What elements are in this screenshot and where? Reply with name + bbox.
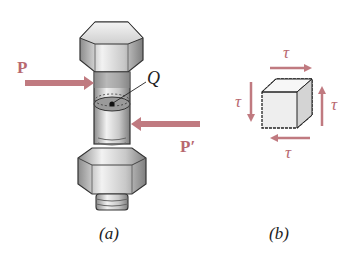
caption-a: (a) [99,224,119,244]
diagram-canvas [0,0,354,266]
shear-label-right: τ [331,95,337,115]
bolt-head [80,22,143,72]
stress-element-cube [262,79,312,128]
nut [78,148,146,194]
caption-b: (b) [269,224,289,244]
shear-label-bottom: τ [285,143,291,163]
force-p-label: P [17,58,27,78]
bolt-shank [94,72,146,145]
force-p-prime-label: P′ [180,137,195,157]
threaded-tip [96,194,128,210]
point-q-label: Q [147,68,160,89]
shear-label-left: τ [235,92,241,112]
shear-label-top: τ [283,43,289,63]
